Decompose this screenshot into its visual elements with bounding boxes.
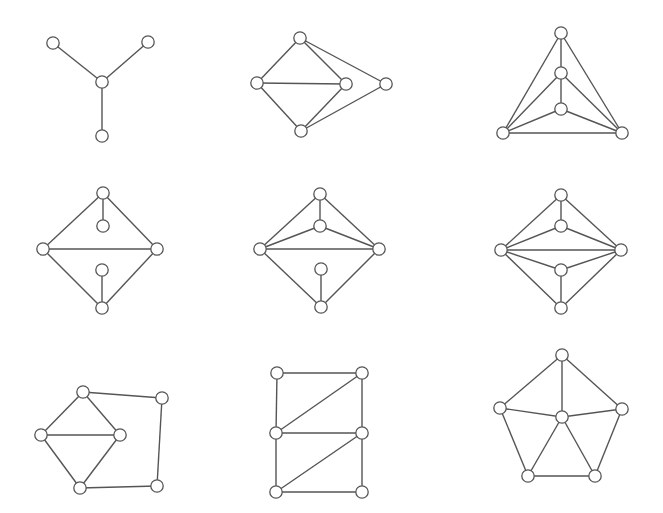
graph-2-node-2 (340, 78, 352, 90)
graph-1-node-0 (47, 37, 59, 49)
graph-5-edge-1-2 (260, 226, 320, 249)
graph-2-node-1 (251, 77, 263, 89)
graph-3-node-3 (497, 127, 509, 139)
graph-2-edge-0-3 (300, 38, 386, 84)
graph-7-node-4 (74, 482, 86, 494)
graph-2-node-0 (294, 32, 306, 44)
graph-6-edge-0-2 (501, 195, 561, 250)
graph-7-edge-0-3 (83, 392, 120, 435)
graph-3-node-1 (555, 67, 567, 79)
graph-5-node-5 (315, 301, 327, 313)
graph-4-node-1 (97, 220, 109, 232)
graph-4-node-5 (96, 302, 108, 314)
graph-5-node-0 (314, 188, 326, 200)
graph-2-edge-0-2 (300, 38, 346, 84)
graph-1 (47, 36, 154, 142)
graph-8 (270, 367, 368, 498)
graph-1-edge-0-2 (53, 43, 102, 82)
graph-9-edge-1-3 (500, 408, 562, 417)
graph-8-node-3 (356, 427, 368, 439)
graph-7-edge-0-1 (83, 392, 162, 398)
graph-7-edge-3-4 (80, 435, 120, 488)
graph-6-node-3 (615, 244, 627, 256)
graph-5-node-3 (373, 243, 385, 255)
graph-9-node-2 (616, 403, 628, 415)
graph-5-edge-0-2 (260, 194, 320, 249)
graph-figure (0, 0, 663, 513)
graph-7-node-5 (151, 480, 163, 492)
graph-2-node-4 (295, 125, 307, 137)
graph-5-node-2 (254, 243, 266, 255)
graph-7-node-0 (77, 386, 89, 398)
graph-6-edge-1-2 (501, 226, 561, 250)
graph-3-edge-2-3 (503, 109, 561, 133)
graph-9-edge-3-5 (562, 417, 595, 476)
graph-2-edge-1-4 (257, 83, 301, 131)
graph-8-node-4 (270, 486, 282, 498)
graph-5-edge-2-5 (260, 249, 321, 307)
graph-4-edge-0-2 (43, 193, 103, 249)
graph-1-node-1 (142, 36, 154, 48)
graph-7-edge-0-2 (41, 392, 83, 435)
graph-6-node-2 (495, 244, 507, 256)
graph-9-edge-2-3 (562, 409, 622, 417)
graph-6-edge-3-5 (561, 250, 621, 308)
graph-8-node-5 (356, 486, 368, 498)
graph-4-node-2 (37, 243, 49, 255)
graph-7 (35, 386, 168, 494)
graph-1-edge-1-2 (102, 42, 148, 82)
graph-5-edge-0-3 (320, 194, 379, 249)
graph-9-node-4 (522, 470, 534, 482)
graph-1-node-2 (96, 76, 108, 88)
graph-2-edge-3-4 (301, 84, 386, 131)
graph-6-node-0 (555, 189, 567, 201)
graph-6-edge-3-4 (561, 250, 621, 270)
graph-9-edge-0-2 (562, 355, 622, 409)
graph-5-node-1 (314, 220, 326, 232)
graph-8-edge-3-4 (276, 433, 362, 492)
graph-5-edge-3-5 (321, 249, 379, 307)
graph-3-edge-0-4 (561, 33, 622, 133)
graph-4-edge-2-5 (43, 249, 102, 308)
graph-4-edge-3-5 (102, 249, 157, 308)
graph-2-edge-1-2 (257, 83, 346, 84)
graph-8-edge-0-2 (276, 373, 277, 433)
graph-9 (494, 349, 628, 482)
graph-7-node-1 (156, 392, 168, 404)
graph-2-edge-0-1 (257, 38, 300, 83)
graph-5-edge-1-3 (320, 226, 379, 249)
graph-1-node-3 (96, 130, 108, 142)
graph-9-node-3 (556, 411, 568, 423)
graph-4-edge-0-3 (103, 193, 157, 249)
graph-9-node-1 (494, 402, 506, 414)
graph-9-node-0 (556, 349, 568, 361)
graph-6-edge-1-3 (561, 226, 621, 250)
graph-9-edge-1-4 (500, 408, 528, 476)
graph-6-edge-0-3 (561, 195, 621, 250)
graph-6-node-1 (555, 220, 567, 232)
graph-8-node-2 (270, 427, 282, 439)
graph-7-edge-1-5 (157, 398, 162, 486)
graph-7-node-2 (35, 429, 47, 441)
graph-5-node-4 (315, 263, 327, 275)
graph-5 (254, 188, 385, 313)
graph-6 (495, 189, 627, 314)
graph-7-edge-4-5 (80, 486, 157, 488)
graph-2-node-3 (380, 78, 392, 90)
graph-3-node-0 (555, 27, 567, 39)
graph-9-edge-0-1 (500, 355, 562, 408)
graph-2 (251, 32, 392, 137)
graph-4-node-0 (97, 187, 109, 199)
graph-2-edge-2-4 (301, 84, 346, 131)
graph-6-node-4 (555, 264, 567, 276)
graph-4-node-4 (96, 264, 108, 276)
graph-3-node-2 (555, 103, 567, 115)
graph-8-node-0 (271, 367, 283, 379)
graph-8-edge-1-2 (276, 373, 362, 433)
graph-9-node-5 (589, 470, 601, 482)
graph-8-node-1 (356, 367, 368, 379)
graph-9-edge-2-5 (595, 409, 622, 476)
graph-4-node-3 (151, 243, 163, 255)
graph-7-edge-2-4 (41, 435, 80, 488)
graph-3-node-4 (616, 127, 628, 139)
